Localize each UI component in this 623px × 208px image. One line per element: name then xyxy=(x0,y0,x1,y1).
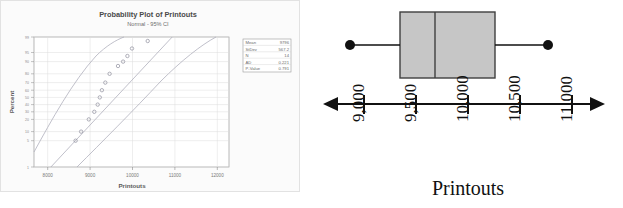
y-axis-tick-labels: 99 95 90 80 70 60 50 40 30 20 10 5 1 xyxy=(25,36,29,170)
boxplot-box xyxy=(400,12,495,78)
legend-row-value: 0.791 xyxy=(279,66,290,71)
boxplot-svg: 9,000 9,500 10,000 10,500 11,000 Printou… xyxy=(305,0,623,208)
legend-row-label: P-Value xyxy=(246,66,261,71)
y-tick-label: 1 xyxy=(27,166,29,170)
legend-row-value: 9796 xyxy=(280,40,290,45)
legend-row-value: 0.221 xyxy=(279,60,290,65)
y-tick-label: 20 xyxy=(25,118,29,122)
boxplot-tick-label: 11,000 xyxy=(557,76,576,122)
legend-row-value: 567.2 xyxy=(279,47,290,52)
boxplot-max-marker xyxy=(543,40,553,50)
boxplot-tick-label: 9,500 xyxy=(401,84,420,122)
x-axis-title: Printouts xyxy=(118,182,146,189)
y-tick-label: 30 xyxy=(25,110,29,114)
x-tick-label: 11000 xyxy=(169,173,182,178)
x-axis-ticks xyxy=(48,167,218,170)
y-tick-label: 40 xyxy=(25,103,29,107)
statistics-legend: Mean 9796 StDev 567.2 N 14 AD 0.221 P-Va… xyxy=(243,39,291,72)
plot-area xyxy=(34,37,229,167)
legend-row-value: 14 xyxy=(284,53,289,58)
boxplot-tick-label: 10,000 xyxy=(453,75,472,122)
boxplot-axis-title: Printouts xyxy=(432,177,504,199)
y-tick-label: 95 xyxy=(25,51,29,55)
probability-plot-subtitle: Normal - 95% CI xyxy=(127,21,169,27)
axis-arrow-left-icon xyxy=(323,97,338,111)
plot-frame xyxy=(34,37,229,167)
legend-row-label: AD xyxy=(246,60,252,65)
y-tick-label: 99 xyxy=(25,36,29,40)
y-tick-label: 50 xyxy=(25,96,29,100)
y-tick-label: 70 xyxy=(25,81,29,85)
legend-row-label: Mean xyxy=(246,40,257,45)
y-axis-ticks xyxy=(31,37,34,167)
boxplot-panel: 9,000 9,500 10,000 10,500 11,000 Printou… xyxy=(305,0,623,208)
axis-arrow-right-icon xyxy=(590,97,605,111)
y-axis-title: Percent xyxy=(8,91,15,114)
boxplot-min-marker xyxy=(345,40,355,50)
y-tick-label: 60 xyxy=(25,89,29,93)
x-axis-tick-labels: 8000 9000 10000 11000 12000 xyxy=(43,173,225,178)
y-tick-label: 90 xyxy=(25,60,29,64)
x-tick-label: 10000 xyxy=(126,173,139,178)
y-tick-label: 80 xyxy=(25,72,29,76)
x-tick-label: 9000 xyxy=(85,173,96,178)
legend-row-label: StDev xyxy=(246,47,258,52)
boxplot-tick-label: 9,000 xyxy=(349,84,368,122)
x-tick-label: 12000 xyxy=(211,173,224,178)
y-tick-label: 10 xyxy=(25,130,29,134)
boxplot-axis-tick-labels: 9,000 9,500 10,000 10,500 11,000 xyxy=(349,75,576,122)
probability-plot-svg: Probability Plot of Printouts Normal - 9… xyxy=(1,1,301,193)
probability-plot-panel: Probability Plot of Printouts Normal - 9… xyxy=(0,0,300,192)
figure-root: Probability Plot of Printouts Normal - 9… xyxy=(0,0,623,208)
y-tick-label: 5 xyxy=(27,139,29,143)
probability-plot-title: Probability Plot of Printouts xyxy=(99,10,197,19)
x-tick-label: 8000 xyxy=(43,173,54,178)
boxplot-tick-label: 10,500 xyxy=(505,75,524,122)
legend-row-label: N xyxy=(246,53,249,58)
